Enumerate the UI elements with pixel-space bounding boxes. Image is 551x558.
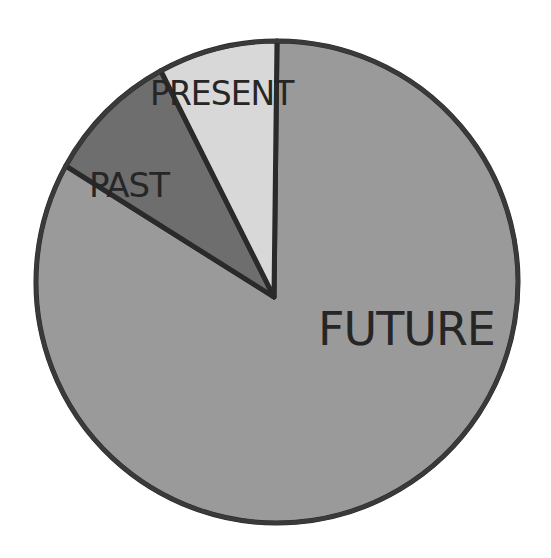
pie-chart: FUTURE PAST PRESENT — [0, 0, 551, 558]
pie-slices — [36, 41, 518, 523]
slice-label-present: PRESENT — [150, 74, 295, 113]
slice-label-past: PAST — [89, 165, 170, 205]
pie-chart-svg: FUTURE PAST PRESENT — [0, 0, 551, 558]
slice-label-future: FUTURE — [318, 302, 495, 356]
